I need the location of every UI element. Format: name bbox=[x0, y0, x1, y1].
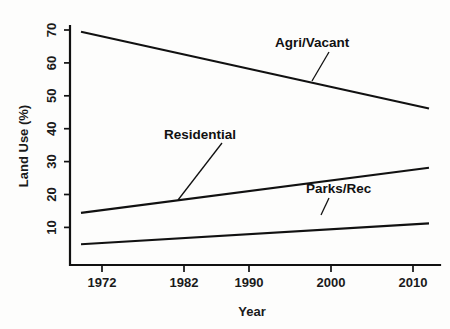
x-tick-labels: 1972 1982 1990 2000 2010 bbox=[88, 275, 428, 290]
chart-figure: 10 20 30 40 50 60 70 Land Use (%) 1972 1… bbox=[0, 0, 450, 329]
y-tick-label: 60 bbox=[44, 56, 59, 70]
x-tick-label: 1972 bbox=[88, 275, 117, 290]
y-axis-title: Land Use (%) bbox=[16, 105, 31, 187]
series-label-parks-rec: Parks/Rec bbox=[306, 181, 372, 196]
series-label-residential: Residential bbox=[164, 127, 236, 142]
series-label-agri-vacant: Agri/Vacant bbox=[275, 35, 350, 50]
series-line-parks-rec bbox=[81, 223, 429, 244]
axis-spines bbox=[70, 26, 440, 265]
y-tick-label: 30 bbox=[44, 154, 59, 168]
line-chart-canvas: 10 20 30 40 50 60 70 Land Use (%) 1972 1… bbox=[0, 0, 450, 329]
leader-line-parks-rec bbox=[321, 198, 329, 215]
leader-line-agri-vacant bbox=[312, 52, 329, 81]
y-tick-label: 40 bbox=[44, 121, 59, 135]
series-line-residential bbox=[81, 168, 429, 213]
x-tick-label: 1990 bbox=[235, 275, 264, 290]
y-tick-label: 70 bbox=[44, 23, 59, 37]
y-tick-labels: 10 20 30 40 50 60 70 bbox=[44, 23, 59, 235]
x-tick-label: 1982 bbox=[170, 275, 199, 290]
series-line-agri-vacant bbox=[81, 32, 429, 109]
x-tick-label: 2000 bbox=[317, 275, 346, 290]
x-axis-title: Year bbox=[238, 304, 265, 319]
y-tick-label: 50 bbox=[44, 89, 59, 103]
leader-line-residential bbox=[178, 143, 222, 200]
y-tick-label: 10 bbox=[44, 220, 59, 234]
y-tick-label: 20 bbox=[44, 187, 59, 201]
x-tick-label: 2010 bbox=[399, 275, 428, 290]
